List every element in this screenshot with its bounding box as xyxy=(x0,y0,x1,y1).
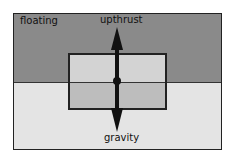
gravity-label: gravity xyxy=(104,132,139,143)
gravity-arrow-icon xyxy=(111,81,123,132)
center-of-mass-dot-icon xyxy=(113,77,121,85)
upthrust-label: upthrust xyxy=(100,14,143,25)
upthrust-arrow-icon xyxy=(111,27,123,81)
floating-label: floating xyxy=(20,15,58,26)
